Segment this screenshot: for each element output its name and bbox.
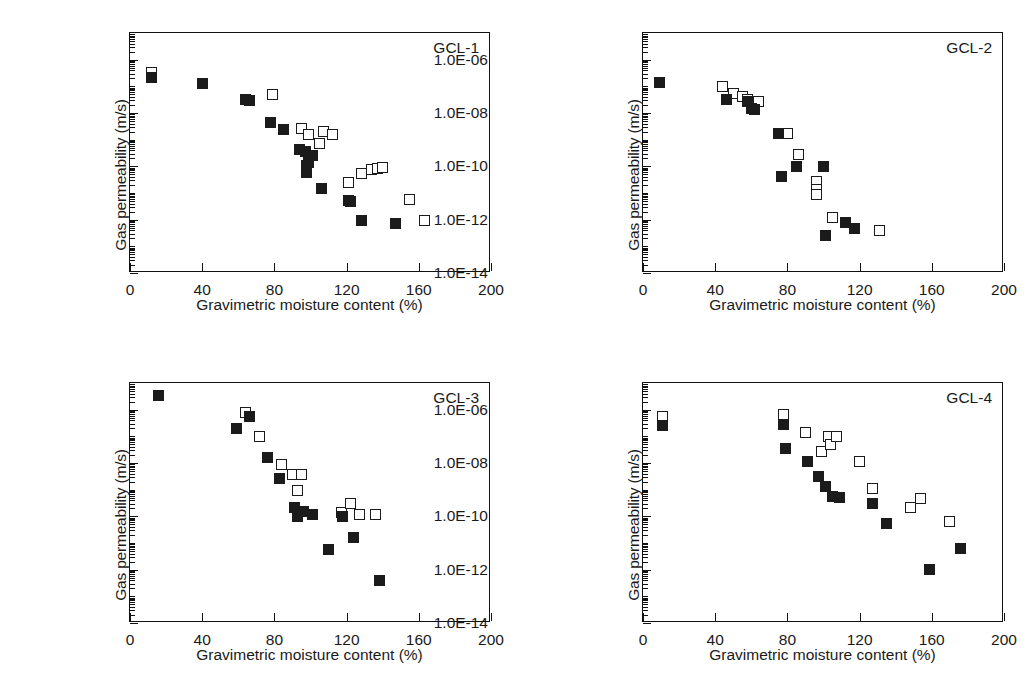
data-point-open-square — [717, 81, 728, 92]
y-tick-label: 1.0E-08 — [288, 104, 488, 122]
data-point-filled-square — [265, 117, 276, 128]
data-point-filled-square — [849, 223, 860, 234]
data-point-filled-square — [262, 452, 273, 463]
y-axis-title: Gas permeability (m/s) — [625, 410, 643, 640]
y-tick-label: 1.0E-06 — [288, 401, 488, 419]
data-point-open-square — [854, 456, 865, 467]
y-tick-major — [643, 623, 651, 624]
data-point-filled-square — [244, 411, 255, 422]
data-point-open-square — [345, 498, 356, 509]
x-tick — [1004, 613, 1005, 621]
y-axis-title: Gas permeability (m/s) — [112, 410, 130, 640]
y-tick-major — [130, 623, 138, 624]
data-point-open-square — [327, 129, 338, 140]
y-tick-major — [130, 273, 138, 274]
data-point-filled-square — [776, 171, 787, 182]
data-point-filled-square — [307, 509, 318, 520]
data-point-filled-square — [301, 167, 312, 178]
data-point-filled-square — [749, 104, 760, 115]
data-point-filled-square — [924, 564, 935, 575]
data-point-filled-square — [356, 215, 367, 226]
data-point-filled-square — [802, 456, 813, 467]
data-point-open-square — [874, 225, 885, 236]
data-point-open-square — [370, 509, 381, 520]
data-point-filled-square — [773, 128, 784, 139]
data-point-filled-square — [881, 518, 892, 529]
data-point-filled-square — [955, 543, 966, 554]
data-point-open-square — [404, 194, 415, 205]
x-axis-title: Gravimetric moisture content (%) — [642, 646, 1003, 664]
data-point-open-square — [267, 89, 278, 100]
data-point-open-square — [811, 189, 822, 200]
data-point-layer — [643, 383, 1002, 621]
y-axis-title: Gas permeability (m/s) — [112, 60, 130, 290]
panel-gcl-4: Gas permeability (m/s)GCL-41.0E-061.0E-0… — [513, 350, 1026, 700]
data-point-filled-square — [654, 77, 665, 88]
y-tick-label: 1.0E-14 — [288, 614, 488, 632]
data-point-open-square — [276, 459, 287, 470]
data-point-open-square — [303, 129, 314, 140]
y-tick-label: 1.0E-14 — [288, 264, 488, 282]
data-point-filled-square — [374, 575, 385, 586]
data-point-open-square — [254, 431, 265, 442]
data-point-open-square — [356, 168, 367, 179]
x-axis-title: Gravimetric moisture content (%) — [129, 646, 490, 664]
x-tick — [491, 263, 492, 271]
x-tick — [491, 613, 492, 621]
y-axis-title-text: Gas permeability (m/s) — [112, 410, 130, 640]
data-point-filled-square — [307, 150, 318, 161]
data-point-filled-square — [348, 532, 359, 543]
data-point-open-square — [793, 149, 804, 160]
plot-frame: GCL-21.0E-061.0E-081.0E-101.0E-121.0E-14… — [642, 32, 1003, 272]
data-point-filled-square — [345, 196, 356, 207]
data-point-filled-square — [231, 423, 242, 434]
data-point-filled-square — [778, 419, 789, 430]
data-point-filled-square — [657, 420, 668, 431]
plot-frame: GCL-41.0E-061.0E-081.0E-101.0E-121.0E-14… — [642, 382, 1003, 622]
data-point-open-square — [944, 516, 955, 527]
y-tick-label: 1.0E-12 — [288, 211, 488, 229]
data-point-open-square — [800, 427, 811, 438]
y-axis-title-text: Gas permeability (m/s) — [112, 60, 130, 290]
data-point-filled-square — [197, 78, 208, 89]
data-point-open-square — [867, 483, 878, 494]
y-axis-title-text: Gas permeability (m/s) — [625, 410, 643, 640]
data-point-filled-square — [818, 161, 829, 172]
data-point-open-square — [354, 509, 365, 520]
data-point-open-square — [831, 431, 842, 442]
data-point-filled-square — [721, 94, 732, 105]
data-point-filled-square — [813, 471, 824, 482]
data-point-filled-square — [337, 511, 348, 522]
data-point-filled-square — [244, 95, 255, 106]
data-point-open-square — [905, 502, 916, 513]
data-point-filled-square — [867, 498, 878, 509]
data-point-open-square — [292, 485, 303, 496]
data-point-filled-square — [153, 390, 164, 401]
data-point-open-square — [915, 493, 926, 504]
data-point-open-square — [343, 177, 354, 188]
data-point-open-square — [419, 215, 430, 226]
panel-gcl-2: Gas permeability (m/s)GCL-21.0E-061.0E-0… — [513, 0, 1026, 350]
y-tick-label: 1.0E-12 — [288, 561, 488, 579]
y-tick-label: 1.0E-06 — [288, 51, 488, 69]
y-axis-title: Gas permeability (m/s) — [625, 60, 643, 290]
data-point-filled-square — [274, 473, 285, 484]
x-axis-title: Gravimetric moisture content (%) — [642, 296, 1003, 314]
y-axis-title-text: Gas permeability (m/s) — [625, 60, 643, 290]
data-point-filled-square — [834, 492, 845, 503]
data-point-layer — [643, 33, 1002, 271]
data-point-open-square — [314, 138, 325, 149]
data-point-filled-square — [316, 183, 327, 194]
figure-gas-permeability-panels: Gas permeability (m/s)GCL-11.0E-061.0E-0… — [0, 0, 1026, 700]
data-point-open-square — [296, 469, 307, 480]
data-point-filled-square — [323, 544, 334, 555]
data-point-filled-square — [820, 230, 831, 241]
x-tick — [1004, 263, 1005, 271]
data-point-layer — [130, 33, 489, 271]
y-tick-label: 1.0E-08 — [288, 454, 488, 472]
x-axis-title: Gravimetric moisture content (%) — [129, 296, 490, 314]
y-tick-major — [643, 273, 651, 274]
y-tick-label: 1.0E-10 — [288, 507, 488, 525]
data-point-filled-square — [791, 161, 802, 172]
data-point-open-square — [377, 162, 388, 173]
